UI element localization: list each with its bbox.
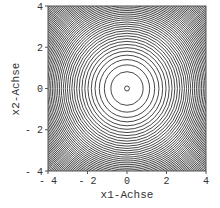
contour-line [49,7,205,170]
y-axis-label: x2-Achse [10,63,22,116]
contour-line [74,33,180,143]
x-tick-label: 4 [203,176,209,187]
contour-line [51,9,204,169]
x-axis-label: x1-Achse [101,189,154,201]
contour-line [47,5,206,171]
contour-line [58,16,197,161]
contour-line [125,86,130,91]
contour-line [54,12,200,164]
contour-lines [16,0,220,205]
y-tick-label: 4 [37,2,43,13]
contour-line [46,4,208,174]
contour-line [111,72,143,106]
contour-line [43,0,212,176]
contour-line [91,51,162,126]
x-tick-label: 2 [163,176,169,187]
y-tick-label: - 4 [25,167,43,178]
x-axis-ticks: - 4- 2024 [39,171,209,187]
contour-line [52,10,201,166]
contour-line [63,22,190,155]
contour-line [67,26,186,151]
contour-line [56,14,199,163]
y-axis-ticks: - 4- 2024 [25,2,48,178]
contour-line [61,20,192,157]
contour-line [59,18,194,159]
contour-line [70,28,185,148]
contour-line [79,39,175,139]
contour-line [85,44,169,132]
contour-line [99,60,154,118]
contour-line [65,24,188,153]
contour-plot: - 4- 2024 - 4- 2024 x1-Achse x2-Achse [0,0,220,208]
x-tick-label: - 2 [78,176,96,187]
y-tick-label: - 2 [25,125,43,136]
y-tick-label: 2 [37,43,43,54]
x-tick-label: - 4 [39,176,57,187]
contour-line [44,2,210,175]
y-tick-label: 0 [37,84,43,95]
x-tick-label: 0 [124,176,130,187]
